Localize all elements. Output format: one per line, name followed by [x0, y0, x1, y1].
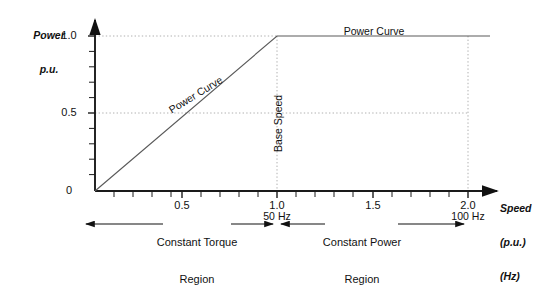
- region-label-constant-torque: Constant Torque Region: [147, 211, 247, 289]
- region-torque-line2: Region: [147, 273, 247, 285]
- region-torque-line1: Constant Torque: [147, 236, 247, 248]
- annotation-power-curve-flat: Power Curve: [334, 26, 414, 37]
- x-axis-title: Speed (p.u.) (Hz): [500, 180, 546, 289]
- x-axis: [95, 191, 497, 198]
- region-power-line1: Constant Power: [312, 236, 412, 248]
- x-axis-title-line2: (p.u.): [500, 237, 546, 248]
- y-axis: [88, 20, 95, 191]
- x-tick-sublabel-100hz: 100 Hz: [441, 211, 495, 222]
- region-power-line2: Region: [312, 273, 412, 285]
- x-axis-title-line1: Speed: [500, 203, 546, 214]
- y-tick-label-0.5: 0.5: [55, 107, 83, 119]
- y-tick-label-1.0: 1.0: [55, 30, 83, 42]
- region-label-constant-power: Constant Power Region: [312, 211, 412, 289]
- x-axis-title-line3: (Hz): [500, 271, 546, 282]
- annotation-base-speed: Base Speed: [273, 95, 284, 152]
- y-axis-title-line2: p.u.: [18, 64, 80, 75]
- y-axis-title: Power p.u.: [18, 7, 80, 98]
- y-tick-label-0: 0: [55, 185, 83, 197]
- x-tick-sublabel-50hz: 50 Hz: [252, 211, 302, 222]
